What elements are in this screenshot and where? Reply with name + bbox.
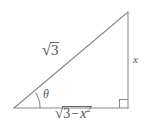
radical-sign-icon: √ [42,42,51,58]
radicand-exponent: 2 [86,104,90,114]
radicand-value: 3 [50,42,60,58]
radicand-value: 3−x2 [62,106,91,121]
hypotenuse-label: √3 [42,42,59,58]
radical-expression: √3 [42,42,59,58]
adjacent-leg-label: √3−x2 [55,106,92,121]
hypotenuse-line [14,12,128,108]
minus-operator: − [70,106,80,121]
radical-sign-icon: √ [55,106,63,121]
angle-arc [36,93,41,109]
angle-label: θ [43,88,49,100]
triangle-figure: √3 x θ √3−x2 [0,0,145,126]
opposite-leg-label: x [133,54,138,65]
right-angle-marker-icon [120,100,129,109]
radical-expression: √3−x2 [55,106,92,121]
